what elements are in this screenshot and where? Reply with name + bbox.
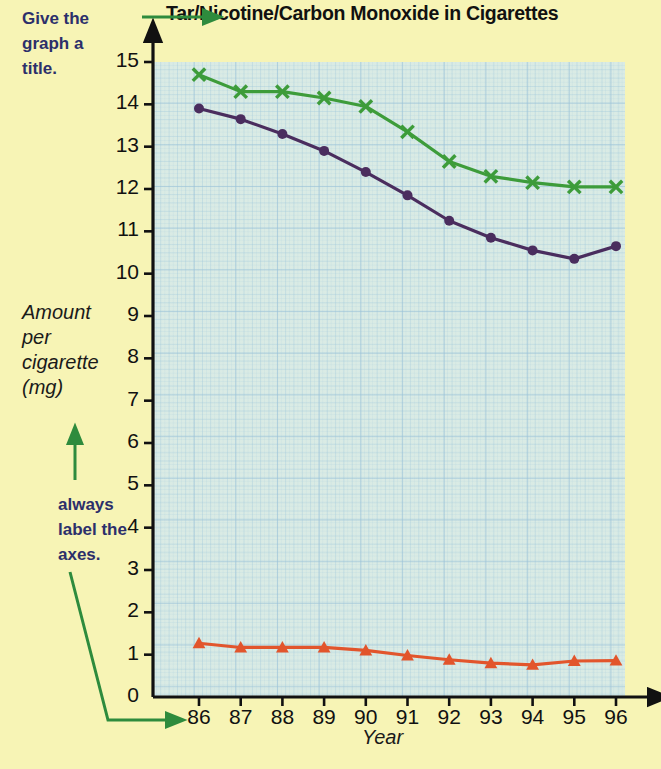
y-tick-label: 4 <box>105 514 139 538</box>
x-tick-label: 89 <box>302 705 346 729</box>
y-tick-label: 6 <box>105 429 139 453</box>
data-point-circle <box>528 245 538 255</box>
x-tick-label: 88 <box>260 705 304 729</box>
data-point-circle <box>319 146 329 156</box>
data-point-circle <box>444 216 454 226</box>
y-tick-label: 2 <box>105 598 139 622</box>
data-point-circle <box>569 254 579 264</box>
x-tick-label: 87 <box>219 705 263 729</box>
x-tick-label: 91 <box>386 705 430 729</box>
x-tick-label: 96 <box>594 705 638 729</box>
y-tick-label: 7 <box>105 387 139 411</box>
data-point-circle <box>486 233 496 243</box>
data-point-circle <box>361 167 371 177</box>
x-tick-label: 94 <box>511 705 555 729</box>
y-tick-label: 11 <box>105 217 139 241</box>
y-tick-label: 10 <box>105 260 139 284</box>
plot-area <box>153 62 625 697</box>
y-tick-label: 3 <box>105 556 139 580</box>
series-layer <box>153 62 625 697</box>
data-point-circle <box>611 241 621 251</box>
series-0 <box>193 69 622 194</box>
chart-title: Tar/Nicotine/Carbon Monoxide in Cigarett… <box>166 2 558 25</box>
y-tick-label: 9 <box>105 302 139 326</box>
chart-page: Give the graph a title. always label the… <box>0 0 661 769</box>
x-tick-label: 92 <box>427 705 471 729</box>
y-tick-label: 14 <box>105 90 139 114</box>
data-point-circle <box>236 114 246 124</box>
data-point-x <box>401 126 413 138</box>
y-tick-label: 5 <box>105 471 139 495</box>
x-tick-label: 86 <box>177 705 221 729</box>
x-tick-label: 93 <box>469 705 513 729</box>
data-point-circle <box>403 190 413 200</box>
data-point-circle <box>194 104 204 114</box>
data-point-circle <box>277 129 287 139</box>
y-tick-label: 1 <box>105 641 139 665</box>
x-tick-label: 95 <box>552 705 596 729</box>
x-tick-label: 90 <box>344 705 388 729</box>
x-axis-label: Year <box>362 726 403 749</box>
data-point-x <box>193 69 205 81</box>
y-tick-label: 13 <box>105 133 139 157</box>
y-tick-label: 15 <box>105 48 139 72</box>
series-2 <box>193 637 623 670</box>
y-tick-label: 8 <box>105 344 139 368</box>
y-tick-label: 12 <box>105 175 139 199</box>
y-tick-label: 0 <box>105 683 139 707</box>
